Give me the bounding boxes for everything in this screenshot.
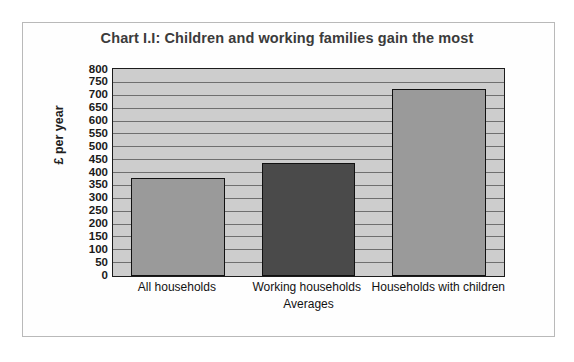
bar-slot — [113, 69, 243, 276]
y-axis-tick-label: 0 — [70, 270, 108, 281]
y-axis-tick-label: 500 — [70, 141, 108, 152]
x-axis-tick-label: All households — [112, 280, 242, 294]
bar — [262, 163, 356, 276]
bar — [131, 178, 225, 276]
y-axis-tick-label: 50 — [70, 257, 108, 268]
bar — [392, 89, 486, 276]
x-axis-title: Averages — [112, 297, 505, 311]
y-axis-tick-label: 150 — [70, 231, 108, 242]
y-axis-tick-label: 650 — [70, 102, 108, 113]
x-axis-tick-label: Working households — [242, 280, 372, 294]
y-axis-tick-label: 400 — [70, 167, 108, 178]
y-axis-tick-labels: 8007507006506005505004504003503002502001… — [70, 62, 108, 277]
y-axis-tick-label: 350 — [70, 179, 108, 190]
y-axis-tick-label: 600 — [70, 115, 108, 126]
y-axis-tick-label: 750 — [70, 76, 108, 87]
y-axis-tick-label: 700 — [70, 89, 108, 100]
bar-slot — [243, 69, 373, 276]
plot-area — [112, 68, 505, 277]
bar-slot — [374, 69, 504, 276]
y-axis-tick-label: 800 — [70, 64, 108, 75]
y-axis-tick-label: 550 — [70, 128, 108, 139]
y-axis-title: £ per year — [52, 85, 66, 185]
bars-layer — [113, 69, 504, 276]
y-axis-tick-label: 250 — [70, 205, 108, 216]
y-axis-tick-label: 100 — [70, 244, 108, 255]
x-axis-tick-labels: All householdsWorking householdsHousehol… — [112, 280, 505, 294]
y-axis-tick-label: 300 — [70, 192, 108, 203]
y-axis-tick-label: 200 — [70, 218, 108, 229]
y-axis-tick-label: 450 — [70, 154, 108, 165]
chart-title: Chart I.I: Children and working families… — [0, 30, 574, 46]
x-axis-tick-label: Households with children — [372, 280, 505, 294]
